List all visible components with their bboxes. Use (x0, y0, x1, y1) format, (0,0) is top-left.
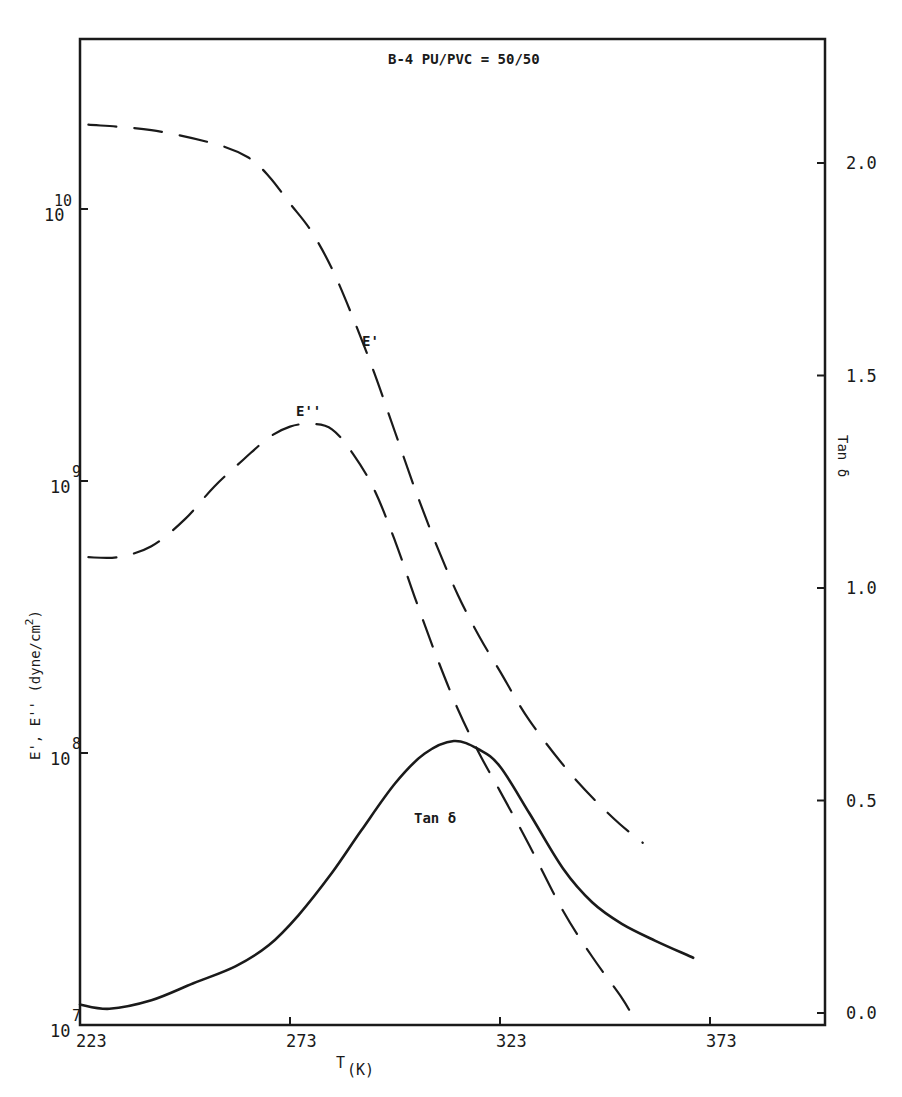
chart: 22327332337310710810910100.00.51.01.52.0… (0, 0, 902, 1097)
series-layer (80, 125, 693, 1020)
x-axis-title: T (K) (336, 1054, 374, 1079)
svg-text:9: 9 (72, 463, 81, 481)
svg-text:7: 7 (72, 1007, 81, 1025)
label-e-prime: E' (362, 333, 379, 349)
svg-text:10: 10 (50, 477, 70, 497)
chart-title: B-4 PU/PVC = 50/50 (388, 51, 540, 67)
label-e-double-prime: E'' (296, 403, 321, 419)
svg-text:10: 10 (54, 192, 72, 210)
y-left-tick-label: 109 (50, 463, 81, 497)
svg-text:10: 10 (50, 1021, 70, 1041)
y-right-tick-label: 1.5 (846, 366, 877, 386)
x-tick-label: 323 (496, 1031, 527, 1051)
y-right-tick-label: 1.0 (846, 578, 877, 598)
axis-ticks (80, 163, 825, 1025)
plot-frame (80, 39, 825, 1025)
svg-text:8: 8 (72, 735, 81, 753)
svg-text:T: T (336, 1054, 345, 1072)
svg-text:(K): (K) (347, 1061, 374, 1079)
svg-text:10: 10 (50, 749, 70, 769)
y-right-tick-label: 0.0 (846, 1003, 877, 1023)
y-right-tick-label: 0.5 (846, 791, 877, 811)
series-e-double-prime-curve (88, 424, 634, 1020)
svg-text:E', E'' (dyne/cm2): E', E'' (dyne/cm2) (23, 610, 43, 760)
x-tick-label: 223 (76, 1031, 107, 1051)
label-tan-delta: Tan δ (414, 810, 456, 826)
y-left-axis-title: E', E'' (dyne/cm2) (23, 610, 43, 760)
series-e-prime-curve (88, 125, 642, 843)
x-tick-label: 373 (706, 1031, 737, 1051)
y-left-tick-label: 108 (50, 735, 81, 769)
x-tick-label: 273 (286, 1031, 317, 1051)
y-right-axis-title: Tan δ (835, 435, 851, 477)
y-left-tick-label: 1010 (44, 192, 72, 225)
svg-text:Tan δ: Tan δ (835, 435, 851, 477)
y-right-tick-label: 2.0 (846, 153, 877, 173)
